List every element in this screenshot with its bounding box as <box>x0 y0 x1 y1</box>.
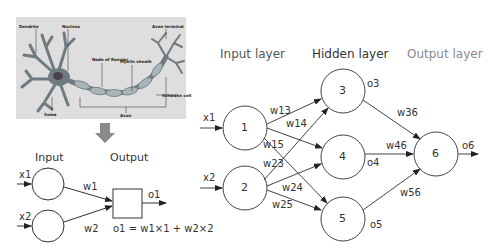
simple-input-node-1 <box>32 168 64 200</box>
output-o4: o4 <box>367 157 379 168</box>
node-3-label: 3 <box>339 84 346 97</box>
network-input-x2: x2 <box>203 172 215 183</box>
weight-w23: w23 <box>263 158 284 169</box>
weight-w25: w25 <box>272 199 293 210</box>
simple-output-o1: o1 <box>148 189 160 200</box>
simple-input-title: Input <box>35 151 63 164</box>
down-arrow-icon <box>95 123 115 143</box>
output-o6: o6 <box>462 140 474 151</box>
node-1-label: 1 <box>241 121 248 134</box>
simple-weight-w2: w2 <box>84 223 99 234</box>
output-layer-title: Output layer <box>407 47 483 61</box>
weight-w15: w15 <box>263 139 284 150</box>
simple-output-box <box>113 189 142 218</box>
simple-input-x2: x2 <box>19 211 31 222</box>
output-o5: o5 <box>370 219 382 230</box>
simple-weight-w1: w1 <box>83 181 98 192</box>
output-o3: o3 <box>367 78 379 89</box>
node-2-label: 2 <box>241 181 248 194</box>
input-layer-title: Input layer <box>220 47 285 61</box>
weight-w14: w14 <box>286 118 307 129</box>
weight-w13: w13 <box>270 105 291 116</box>
node-6-label: 6 <box>432 147 439 160</box>
weight-w24: w24 <box>282 182 303 193</box>
network-input-x1: x1 <box>203 112 215 123</box>
simple-input-x1: x1 <box>19 169 31 180</box>
hidden-layer-title: Hidden layer <box>312 47 389 61</box>
simple-output-title: Output <box>110 151 148 164</box>
node-5-label: 5 <box>339 212 346 225</box>
node-4-label: 4 <box>339 150 346 163</box>
simple-input-node-2 <box>32 210 64 242</box>
weight-w46: w46 <box>386 140 407 151</box>
weight-w56: w56 <box>400 187 421 198</box>
simple-formula: o1 = w1×1 + w2×2 <box>113 223 214 234</box>
weight-w36: w36 <box>397 107 418 118</box>
